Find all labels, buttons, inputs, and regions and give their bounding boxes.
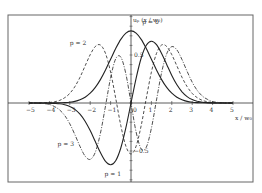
labels: p = 0p = 1p = 2p = 3 xyxy=(58,18,159,178)
x-tick-label: 1 xyxy=(148,106,152,113)
series-label: p = 1 xyxy=(104,170,121,178)
x-axis-label: x / w₀ xyxy=(235,114,252,121)
y-axis-label: uₚ (x / w₀) xyxy=(133,16,163,23)
x-tick-label: 5 xyxy=(230,106,234,113)
x-tick-label: −4 xyxy=(46,106,55,113)
x-tick-label: 0 xyxy=(133,106,137,113)
y-tick-label: −0.5 xyxy=(134,147,149,154)
x-tick-label: 4 xyxy=(210,106,214,113)
x-tick-label: −5 xyxy=(26,106,35,113)
series-label: p = 3 xyxy=(58,140,75,148)
x-tick-label: −1 xyxy=(108,106,117,113)
series-label: p = 2 xyxy=(70,39,87,47)
x-tick-label: −2 xyxy=(87,106,96,113)
hermite-gaussian-chart: −5−4−3−2−10123450.5−0.5 p = 0p = 1p = 2p… xyxy=(0,0,262,193)
x-tick-label: 2 xyxy=(169,106,173,113)
x-tick-label: 3 xyxy=(189,106,193,113)
